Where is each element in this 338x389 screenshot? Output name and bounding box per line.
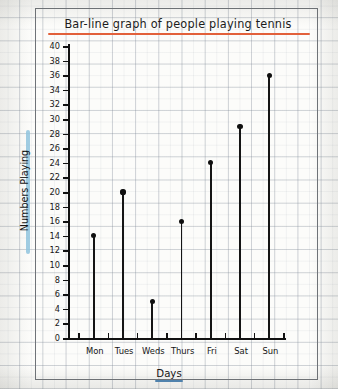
y-tick	[63, 148, 69, 150]
y-tick-label: 2	[55, 319, 60, 327]
data-point-marker	[150, 299, 155, 304]
y-tick-label: 40	[50, 42, 60, 50]
x-tick	[166, 333, 168, 340]
data-stem	[151, 302, 153, 339]
y-tick	[63, 265, 69, 267]
y-axis-title: Numbers Playing	[19, 129, 30, 253]
data-stem	[210, 163, 212, 338]
data-point-marker	[91, 233, 96, 238]
y-tick-label: 20	[50, 188, 60, 196]
y-tick	[63, 104, 69, 106]
y-tick	[63, 250, 69, 252]
y-tick	[63, 207, 69, 209]
data-point-marker	[120, 189, 125, 194]
chart-title: Bar-line graph of people playing tennis	[64, 17, 291, 31]
y-tick	[63, 338, 69, 340]
y-tick-label: 28	[50, 129, 60, 137]
y-tick	[63, 177, 69, 179]
y-tick	[63, 90, 69, 92]
y-tick-label: 24	[50, 159, 60, 167]
data-point-marker	[237, 124, 242, 129]
x-tick	[137, 333, 139, 340]
y-tick	[63, 236, 69, 238]
y-tick	[63, 163, 69, 165]
y-tick-label: 14	[50, 232, 60, 240]
y-tick-label: 0	[55, 334, 60, 342]
data-stem	[268, 75, 270, 338]
y-tick-label: 36	[50, 71, 60, 79]
x-tick-label: Sat	[234, 346, 248, 356]
y-tick-label: 18	[50, 202, 60, 210]
y-tick	[63, 119, 69, 121]
x-axis-title-underline	[155, 380, 182, 382]
y-tick-label: 38	[50, 56, 60, 64]
x-tick-label: Thurs	[171, 346, 195, 356]
data-point-marker	[208, 160, 213, 165]
y-tick-label: 10	[50, 261, 60, 269]
y-tick-label: 32	[50, 100, 60, 108]
y-tick	[63, 192, 69, 194]
y-tick	[63, 134, 69, 136]
x-tick	[108, 333, 110, 340]
y-tick	[63, 61, 69, 63]
data-stem	[239, 126, 241, 338]
data-stem	[122, 192, 124, 338]
y-tick	[63, 221, 69, 223]
x-tick	[78, 333, 80, 340]
y-tick-label: 4	[55, 305, 60, 313]
y-tick-label: 30	[50, 115, 60, 123]
data-stem	[93, 236, 95, 338]
chart-title-underline	[48, 33, 310, 35]
data-stem	[181, 221, 183, 338]
x-axis-title-container: Days	[0, 362, 338, 381]
y-axis-title-container: Numbers Playing	[16, 130, 32, 254]
y-tick-label: 6	[55, 290, 60, 298]
x-tick-label: Weds	[142, 346, 165, 356]
x-tick	[283, 333, 285, 340]
x-tick	[195, 333, 197, 340]
y-tick-label: 8	[55, 275, 60, 283]
y-tick	[63, 46, 69, 48]
x-tick-label: Tues	[115, 346, 134, 356]
y-tick	[63, 323, 69, 325]
x-tick-label: Sun	[262, 346, 278, 356]
plot-area: 0246810121416182022242628303234363840	[68, 44, 286, 340]
y-tick-label: 26	[50, 144, 60, 152]
y-tick	[63, 309, 69, 311]
x-tick-label: Mon	[86, 346, 104, 356]
x-tick	[254, 333, 256, 340]
y-tick	[63, 75, 69, 77]
y-tick	[63, 294, 69, 296]
y-tick-label: 22	[50, 173, 60, 181]
x-tick-label: Fri	[207, 346, 217, 356]
x-axis-title-text: Days	[156, 368, 181, 379]
y-tick-label: 16	[50, 217, 60, 225]
y-tick-label: 34	[50, 86, 60, 94]
x-tick	[225, 333, 227, 340]
data-point-marker	[267, 73, 272, 78]
data-point-marker	[179, 219, 184, 224]
y-tick-label: 12	[50, 246, 60, 254]
x-axis-title: Days	[156, 368, 181, 381]
y-tick	[63, 280, 69, 282]
